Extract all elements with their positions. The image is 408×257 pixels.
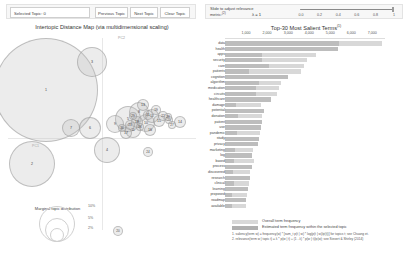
term-label[interactable]: care: [218, 64, 225, 68]
slider-handle[interactable]: [392, 7, 394, 11]
term-label[interactable]: data: [218, 41, 225, 45]
term-row[interactable]: available: [204, 203, 408, 208]
salient-terms-bar-chart[interactable]: 1,0002,0003,0004,0005,0006,0007,000 data…: [204, 31, 408, 221]
term-row[interactable]: data: [204, 41, 408, 46]
term-label[interactable]: study: [217, 136, 225, 140]
term-row[interactable]: pandemic: [204, 131, 408, 136]
term-row[interactable]: apps: [204, 52, 408, 57]
term-label[interactable]: use: [219, 125, 225, 129]
term-label[interactable]: research: [211, 176, 225, 180]
ldavis-app: Selected Topic: 0 Previous Topic Next To…: [0, 0, 408, 257]
topic-frequency-bar: [225, 103, 236, 107]
slider-tick-2: 0.4: [336, 13, 341, 17]
term-row[interactable]: patient: [204, 119, 408, 124]
topic-frequency-bar: [225, 159, 234, 163]
term-label[interactable]: potential: [212, 108, 225, 112]
term-row[interactable]: clinical: [204, 181, 408, 186]
term-row[interactable]: research: [204, 175, 408, 180]
topic-bubble-label-7: 7: [70, 126, 72, 130]
term-row[interactable]: medication: [204, 86, 408, 91]
lambda-footnote-ref: (2): [222, 11, 226, 15]
term-label[interactable]: cognition: [211, 75, 225, 79]
topic-bubble-label-1: 1: [45, 88, 47, 92]
term-label[interactable]: patient: [214, 120, 225, 124]
term-label[interactable]: patients: [213, 69, 225, 73]
term-row[interactable]: learning: [204, 187, 408, 192]
term-label[interactable]: damage: [212, 103, 225, 107]
topic-bubble-label-2: 2: [31, 162, 33, 166]
term-row[interactable]: potential: [204, 108, 408, 113]
term-label[interactable]: process: [213, 164, 225, 168]
term-label[interactable]: log: [220, 153, 225, 157]
term-row[interactable]: circuits: [204, 91, 408, 96]
selected-topic-field[interactable]: Selected Topic: 0: [10, 7, 90, 18]
topic-frequency-bar: [225, 165, 252, 169]
term-row[interactable]: health: [204, 47, 408, 52]
term-label[interactable]: based: [215, 159, 225, 163]
bar-axis-tick-2000: 2,000: [263, 31, 272, 35]
bar-axis-tick-4000: 4,000: [305, 31, 314, 35]
term-label[interactable]: circuits: [214, 92, 225, 96]
term-label[interactable]: available: [211, 204, 225, 208]
term-label[interactable]: proposed: [210, 192, 225, 196]
slider-tick-5: 1: [393, 13, 395, 17]
term-row[interactable]: based: [204, 159, 408, 164]
term-label[interactable]: algorithm: [211, 80, 225, 84]
term-label[interactable]: clinical: [214, 181, 225, 185]
term-row[interactable]: patients: [204, 69, 408, 74]
topic-frequency-bar: [225, 69, 249, 73]
topic-frequency-bar: [225, 81, 259, 85]
bar-axis-tick-1000: 1,000: [242, 31, 251, 35]
bar-axis-tick-5000: 5,000: [326, 31, 335, 35]
term-row[interactable]: donation: [204, 114, 408, 119]
term-label[interactable]: security: [213, 58, 225, 62]
topic-bubble-label-28: 28: [166, 115, 169, 119]
topic-bubble-label-14: 14: [178, 120, 182, 124]
topic-frequency-bar: [225, 176, 250, 180]
topic-bubble-label-17: 17: [124, 131, 128, 135]
term-label[interactable]: learning: [213, 187, 225, 191]
marginal-circle-10%: [39, 206, 75, 242]
bar-axis-tick-3000: 3,000: [284, 31, 293, 35]
term-row[interactable]: proposed: [204, 192, 408, 197]
term-row[interactable]: privacy: [204, 142, 408, 147]
term-label[interactable]: healthcare: [209, 97, 225, 101]
term-row[interactable]: study: [204, 136, 408, 141]
term-label[interactable]: discovered: [208, 170, 225, 174]
bar-axis-tick-6000: 6,000: [347, 31, 356, 35]
lambda-slider[interactable]: 0.00.20.40.60.81: [298, 6, 398, 19]
intertopic-distance-map[interactable]: PC2 PC1 12345678910111213141516171819202…: [0, 30, 204, 215]
topic-bubble-label-3: 3: [91, 60, 93, 64]
term-row[interactable]: use: [204, 125, 408, 130]
term-row[interactable]: healthcare: [204, 97, 408, 102]
lambda-instruction-line2: metric:: [210, 13, 222, 18]
next-topic-button[interactable]: Next Topic: [130, 7, 158, 18]
term-label[interactable]: privacy: [214, 142, 225, 146]
term-label[interactable]: apps: [217, 52, 225, 56]
term-row[interactable]: algorithm: [204, 80, 408, 85]
term-label[interactable]: marketing: [210, 148, 225, 152]
clear-topic-button[interactable]: Clear Topic: [160, 7, 190, 18]
term-label[interactable]: pandemic: [210, 131, 225, 135]
term-label[interactable]: medication: [208, 86, 225, 90]
term-label[interactable]: donation: [212, 114, 225, 118]
topic-bubble-label-6: 6: [89, 126, 91, 130]
term-row[interactable]: damage: [204, 103, 408, 108]
term-label[interactable]: roadmap: [211, 198, 225, 202]
term-row[interactable]: care: [204, 63, 408, 68]
term-row[interactable]: process: [204, 164, 408, 169]
topic-frequency-bar: [225, 92, 256, 96]
term-row[interactable]: marketing: [204, 147, 408, 152]
term-row[interactable]: log: [204, 153, 408, 158]
slider-track[interactable]: [300, 9, 393, 11]
term-row[interactable]: cognition: [204, 75, 408, 80]
term-row[interactable]: security: [204, 58, 408, 63]
lambda-value: λ = 1: [252, 12, 261, 17]
term-label[interactable]: health: [215, 47, 225, 51]
term-row[interactable]: roadmap: [204, 198, 408, 203]
previous-topic-button[interactable]: Previous Topic: [95, 7, 128, 18]
slider-tick-4: 0.8: [373, 13, 378, 17]
topic-frequency-bar: [225, 114, 238, 118]
topic-bubble-label-29: 29: [131, 114, 134, 118]
term-row[interactable]: discovered: [204, 170, 408, 175]
